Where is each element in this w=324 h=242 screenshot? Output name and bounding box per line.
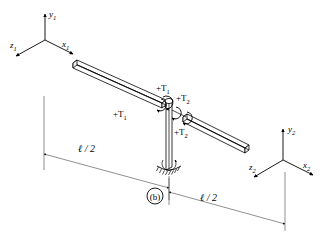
- figure-label-group: (b): [147, 188, 163, 204]
- left-beam: [73, 60, 166, 108]
- diagram-canvas: y1 x1 z1: [0, 0, 324, 242]
- left-beam-inner-edge: [77, 65, 166, 105]
- torsion-diagram-figure: y1 x1 z1: [0, 0, 324, 242]
- left-coordinate-system: y1 x1 z1: [9, 9, 73, 56]
- axis-label-y2: y2: [287, 124, 296, 136]
- right-beam-front-face: [183, 117, 245, 153]
- right-beam: [183, 114, 249, 153]
- right-beam-inner-edge: [187, 119, 249, 150]
- axis-label-x2: x2: [302, 160, 311, 172]
- right-dimension-line: [169, 192, 285, 224]
- torque-label-t2-upper: +T2: [176, 93, 190, 105]
- dimension-label-left: ℓ / 2: [78, 143, 95, 154]
- torque-label-t1-column-top: +T1: [156, 83, 170, 95]
- axis-label-z1: z1: [9, 40, 17, 52]
- dimension-left-half-span: ℓ / 2: [44, 96, 169, 205]
- axis-label-y1: y1: [48, 9, 56, 21]
- axis-label-z2: z2: [248, 162, 257, 174]
- dimension-right-half-span: ℓ / 2: [169, 172, 285, 231]
- figure-label-text: (b): [150, 192, 161, 202]
- right-coordinate-system: y2 x2 z2: [248, 124, 313, 177]
- torque-arc-t2-upper: [172, 107, 181, 119]
- torque-label-t1-left-beam: +T1: [113, 109, 127, 121]
- left-beam-front-face: [73, 63, 162, 108]
- axis-z1-line: [16, 40, 45, 56]
- axis-z2-line: [254, 160, 283, 177]
- torque-label-t2-lower: +T2: [174, 127, 188, 139]
- left-beam-top-face: [73, 60, 166, 103]
- left-dimension-line: [44, 154, 169, 188]
- right-beam-top-face: [183, 114, 249, 148]
- axis-label-x1: x1: [61, 39, 69, 51]
- dimension-label-right: ℓ / 2: [200, 192, 217, 203]
